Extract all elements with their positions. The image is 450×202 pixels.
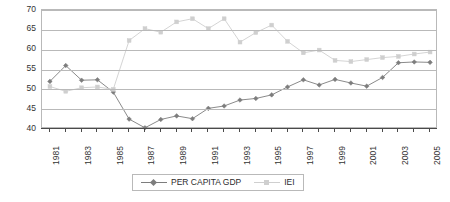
data-point-marker xyxy=(159,117,164,122)
x-axis-tick xyxy=(207,128,208,132)
data-point-marker xyxy=(365,58,369,62)
x-axis-tick xyxy=(176,128,177,132)
plot-area xyxy=(41,9,437,128)
data-point-marker xyxy=(127,39,131,43)
data-point-marker xyxy=(238,40,242,44)
data-point-marker xyxy=(333,58,337,62)
data-point-marker xyxy=(254,31,258,35)
x-axis-tick-label: 1995 xyxy=(274,146,283,165)
x-axis-tick xyxy=(49,128,50,132)
x-axis-tick xyxy=(366,128,367,132)
x-axis-tick xyxy=(413,128,414,132)
legend-point-marker xyxy=(264,180,269,185)
x-axis-tick-label: 2001 xyxy=(369,146,378,165)
line-chart: 40455055606570 1981198319851987198919911… xyxy=(0,0,450,202)
x-axis-tick xyxy=(397,128,398,132)
x-axis-tick xyxy=(160,128,161,132)
gridline xyxy=(42,109,436,110)
x-axis-tick xyxy=(223,128,224,132)
x-axis-tick xyxy=(318,128,319,132)
data-point-marker xyxy=(127,117,132,122)
gridline xyxy=(42,89,436,90)
x-axis: 1981198319851987198919911993199519971999… xyxy=(41,133,437,167)
legend-point-marker xyxy=(150,179,157,186)
data-point-marker xyxy=(270,23,274,27)
data-point-marker xyxy=(254,96,259,101)
data-point-marker xyxy=(222,17,226,21)
x-axis-tick xyxy=(96,128,97,132)
y-axis: 40455055606570 xyxy=(0,0,41,128)
x-axis-tick-label: 1985 xyxy=(116,146,125,165)
x-axis-tick xyxy=(255,128,256,132)
data-point-marker xyxy=(333,77,338,82)
y-axis-tick-label: 50 xyxy=(27,84,36,93)
x-axis-tick xyxy=(382,128,383,132)
x-axis-tick xyxy=(144,128,145,132)
y-axis-tick-label: 55 xyxy=(27,64,36,73)
x-axis-tick-label: 1983 xyxy=(84,146,93,165)
x-axis-tick xyxy=(128,128,129,132)
x-axis-tick-label: 1997 xyxy=(306,146,315,165)
y-axis-tick-label: 60 xyxy=(27,44,36,53)
gridline xyxy=(42,70,436,71)
data-point-marker xyxy=(190,116,195,121)
data-point-marker xyxy=(301,78,306,83)
legend-label-per-capita-gdp: PER CAPITA GDP xyxy=(171,178,241,187)
legend: PER CAPITA GDP IEI xyxy=(132,174,304,191)
data-point-marker xyxy=(301,51,305,55)
data-point-marker xyxy=(269,93,274,98)
x-axis-tick-label: 1987 xyxy=(147,146,156,165)
data-point-marker xyxy=(317,83,322,88)
data-point-marker xyxy=(222,104,227,109)
data-point-marker xyxy=(286,39,290,43)
y-axis-tick-label: 40 xyxy=(27,124,36,133)
x-axis-tick xyxy=(65,128,66,132)
legend-marker-per-capita-gdp xyxy=(141,178,167,187)
data-point-marker xyxy=(428,60,433,65)
x-axis-tick xyxy=(271,128,272,132)
data-point-marker xyxy=(238,98,243,103)
y-axis-tick-label: 45 xyxy=(27,104,36,113)
x-axis-tick-label: 1991 xyxy=(211,146,220,165)
x-axis-tick-label: 1989 xyxy=(179,146,188,165)
x-axis-tick-label: 2003 xyxy=(401,146,410,165)
y-axis-tick-label: 70 xyxy=(27,5,36,14)
data-point-marker xyxy=(174,114,179,119)
x-axis-tick xyxy=(239,128,240,132)
x-axis-tick xyxy=(350,128,351,132)
x-axis-tick-label: 2005 xyxy=(433,146,442,165)
x-axis-tick xyxy=(81,128,82,132)
x-axis-tick xyxy=(334,128,335,132)
legend-item-iei: IEI xyxy=(254,178,294,187)
gridline xyxy=(42,30,436,31)
legend-marker-iei xyxy=(254,178,280,187)
x-axis-tick-label: 1981 xyxy=(52,146,61,165)
x-axis-tick-label: 1999 xyxy=(338,146,347,165)
data-point-marker xyxy=(397,55,401,59)
legend-item-per-capita-gdp: PER CAPITA GDP xyxy=(141,178,241,187)
gridline xyxy=(42,50,436,51)
legend-label-iei: IEI xyxy=(284,178,294,187)
x-axis-tick xyxy=(302,128,303,132)
gridline xyxy=(42,10,436,11)
data-point-marker xyxy=(381,56,385,60)
x-axis-tick xyxy=(191,128,192,132)
x-axis-tick xyxy=(287,128,288,132)
data-point-marker xyxy=(412,60,417,65)
series-line xyxy=(50,62,430,128)
data-point-marker xyxy=(349,81,354,86)
data-point-marker xyxy=(191,17,195,21)
x-axis-tick xyxy=(112,128,113,132)
data-point-marker xyxy=(364,84,369,89)
data-point-marker xyxy=(48,85,52,89)
data-point-marker xyxy=(412,52,416,56)
data-point-marker xyxy=(349,60,353,64)
x-axis-tick-label: 1993 xyxy=(243,146,252,165)
y-axis-tick-label: 65 xyxy=(27,24,36,33)
data-point-marker xyxy=(175,20,179,24)
x-axis-tick xyxy=(429,128,430,132)
